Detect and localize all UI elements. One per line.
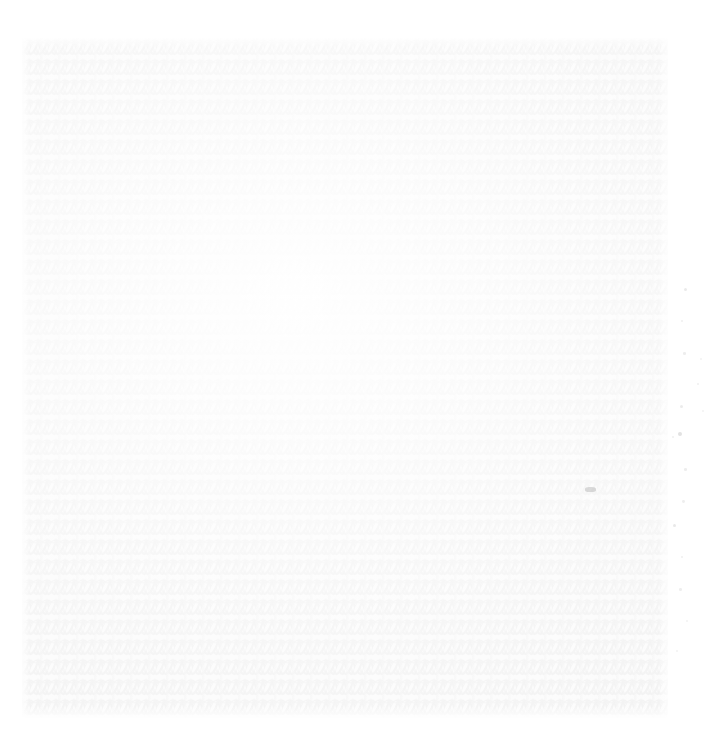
dust-speck (702, 410, 704, 412)
knit-fabric-panel (22, 38, 668, 718)
dust-speck (683, 352, 686, 355)
dust-speck (681, 556, 683, 558)
dust-speck (686, 620, 688, 622)
dust-speck (684, 468, 687, 471)
dust-speck (680, 405, 683, 408)
dust-speck (682, 500, 685, 503)
dust-speck (700, 358, 702, 360)
dust-speck (673, 524, 676, 527)
dust-speck (679, 588, 682, 591)
dust-speck (676, 650, 678, 652)
dust-speck (681, 320, 683, 322)
scene-canvas (0, 0, 711, 754)
dust-speck (684, 288, 687, 291)
dust-speck (678, 432, 682, 436)
dust-speck (697, 383, 699, 385)
dust-speck (672, 436, 674, 438)
stockinette-stitch-field (22, 38, 668, 718)
